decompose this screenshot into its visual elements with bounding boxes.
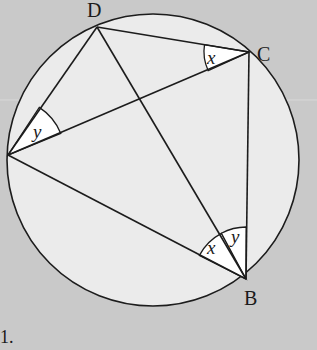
angle-label-x-at-c: x xyxy=(206,47,216,68)
point-label-d: D xyxy=(87,0,101,21)
point-label-b: B xyxy=(244,287,257,309)
point-label-c: C xyxy=(257,43,270,65)
angle-label-y-at-a: y xyxy=(31,121,42,142)
circumscribed-circle xyxy=(7,14,299,306)
angle-label-y-at-b: y xyxy=(229,226,240,247)
diagram-stage: D C B x y x y 1. xyxy=(0,0,317,350)
cyclic-quadrilateral-diagram: D C B x y x y xyxy=(0,0,317,350)
question-number-fragment: 1. xyxy=(0,327,14,348)
angle-label-x-at-b: x xyxy=(206,237,216,258)
